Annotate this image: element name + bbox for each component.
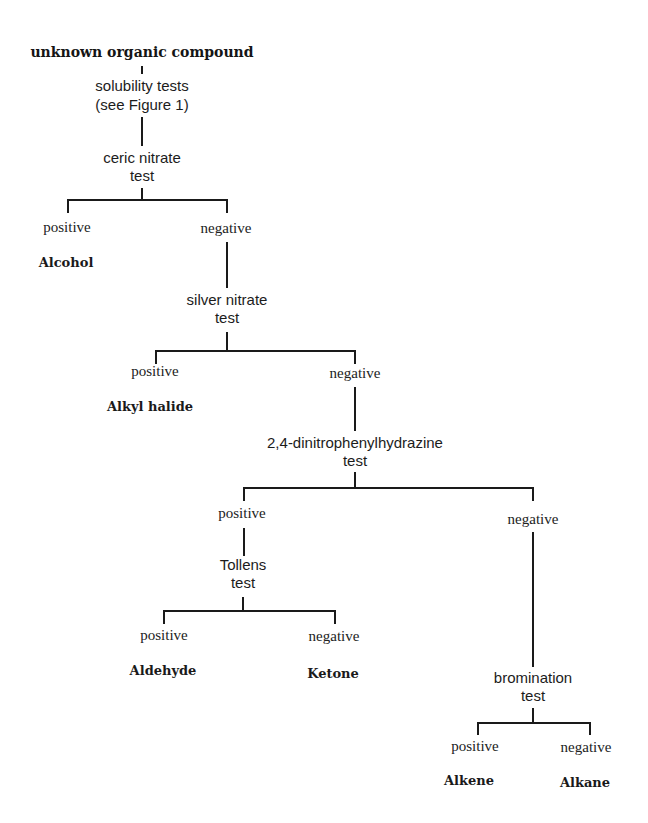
result-alkene: Alkene [444, 774, 494, 787]
connector-line [532, 708, 534, 723]
connector-line [67, 199, 69, 213]
positive-branch-label: positive [451, 739, 499, 754]
connector-line [242, 597, 244, 611]
dnph-test-label-2: test [343, 453, 367, 468]
connector-line [141, 117, 143, 146]
solubility-test-label: solubility tests [95, 78, 188, 93]
silver-nitrate-test-label-2: test [215, 310, 239, 325]
tollens-test-label-2: test [231, 575, 255, 590]
connector-line [155, 350, 157, 364]
result-alkane: Alkane [560, 776, 610, 789]
connector-line [141, 66, 143, 74]
branch-line [155, 350, 356, 352]
branch-line [67, 199, 228, 201]
connector-line [354, 350, 356, 364]
dnph-test-label: 2,4-dinitrophenylhydrazine [267, 435, 443, 450]
result-alcohol: Alcohol [39, 256, 94, 269]
connector-line [589, 722, 591, 735]
negative-branch-label: negative [330, 366, 381, 381]
positive-branch-label: positive [43, 220, 91, 235]
silver-nitrate-test-label: silver nitrate [187, 292, 268, 307]
branch-line [477, 722, 591, 724]
bromination-test-label: bromination [494, 670, 572, 685]
root-node-label: unknown organic compound [30, 45, 253, 59]
connector-line [243, 528, 245, 556]
ceric-nitrate-test-label-2: test [130, 168, 154, 183]
connector-line [532, 487, 534, 501]
positive-branch-label: positive [140, 628, 188, 643]
branch-line [163, 610, 336, 612]
result-alkyl-halide: Alkyl halide [107, 400, 193, 413]
negative-branch-label: negative [201, 221, 252, 236]
ceric-nitrate-test-label: ceric nitrate [103, 150, 181, 165]
branch-line [243, 487, 534, 489]
connector-line [226, 332, 228, 350]
connector-line [477, 722, 479, 735]
connector-line [354, 472, 356, 488]
bromination-test-label-2: test [521, 688, 545, 703]
connector-line [334, 610, 336, 624]
negative-branch-label: negative [508, 512, 559, 527]
connector-line [226, 199, 228, 213]
connector-line [226, 242, 228, 288]
result-aldehyde: Aldehyde [130, 664, 197, 677]
positive-branch-label: positive [218, 506, 266, 521]
solubility-test-note: (see Figure 1) [95, 97, 188, 112]
negative-branch-label: negative [561, 740, 612, 755]
positive-branch-label: positive [131, 364, 179, 379]
result-ketone: Ketone [307, 667, 359, 680]
connector-line [532, 532, 534, 667]
connector-line [243, 487, 245, 501]
connector-line [163, 610, 165, 624]
tollens-test-label: Tollens [220, 557, 267, 572]
negative-branch-label: negative [309, 629, 360, 644]
connector-line [354, 387, 356, 431]
